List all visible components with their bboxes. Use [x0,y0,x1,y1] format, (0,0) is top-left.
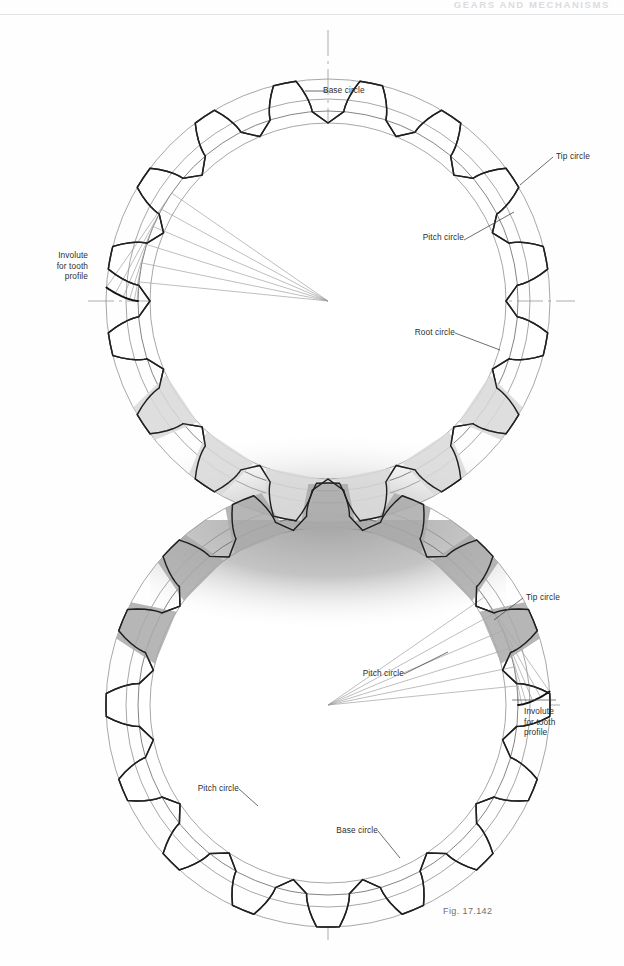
leader-tip-circle-top [520,157,553,185]
label-involute-bottom-line3: profile [524,727,547,737]
label-pitch-circle-bottom-left: Pitch circle [179,783,239,794]
label-root-circle-top: Root circle [393,327,455,338]
gear-pair-diagram [0,0,624,966]
label-tip-circle-top: Tip circle [556,151,590,162]
label-involute-bottom: Involute for tooth profile [524,706,588,738]
label-involute-bottom-line2: for tooth [524,717,555,727]
label-pitch-circle-top: Pitch circle [404,232,464,243]
label-base-circle-bottom: Base circle [318,825,378,836]
label-involute-top-line2: for tooth [57,261,88,271]
figure-caption: Fig. 17.142 [443,906,492,916]
label-involute-top-line3: profile [65,271,88,281]
label-involute-top-line1: Involute [58,250,88,260]
label-involute-bottom-line1: Involute [524,706,554,716]
label-involute-top: Involute for tooth profile [18,250,88,282]
lower-mesh-shading [150,520,506,660]
label-base-circle-top: Base circle [323,85,365,96]
figure-page: GEARS AND MECHANISMS [0,0,624,966]
label-pitch-circle-bottom-right: Pitch circle [344,668,404,679]
upper-involute-curve [106,288,138,301]
label-tip-circle-bottom: Tip circle [526,592,560,603]
